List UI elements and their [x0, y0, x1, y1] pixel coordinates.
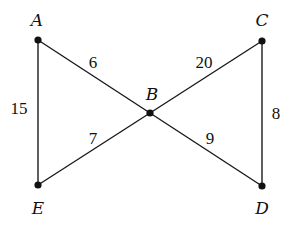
- edge-weight-b-d: 9: [206, 129, 215, 148]
- edge-weight-e-b: 7: [89, 129, 98, 148]
- vertex-label-a: A: [29, 10, 43, 30]
- vertex-label-e: E: [31, 198, 45, 218]
- graph-diagram: A B C D E 6 20 15 8 7 9: [0, 0, 289, 228]
- vertex-d: [258, 182, 265, 189]
- vertex-label-b: B: [145, 84, 159, 104]
- edge-weight-a-b: 6: [89, 53, 98, 72]
- vertex-label-c: C: [255, 10, 268, 30]
- edge-weight-b-c: 20: [196, 53, 213, 72]
- vertex-a: [34, 36, 41, 43]
- edge-weight-a-e: 15: [11, 99, 28, 118]
- edge-a-b: [38, 40, 150, 113]
- edge-b-d: [150, 113, 262, 186]
- vertex-b: [146, 109, 153, 116]
- edge-weight-c-d: 8: [272, 104, 281, 123]
- vertex-e: [34, 181, 41, 188]
- edge-e-b: [38, 113, 150, 185]
- vertex-label-d: D: [254, 198, 269, 218]
- edge-b-c: [150, 41, 262, 113]
- vertex-c: [258, 37, 265, 44]
